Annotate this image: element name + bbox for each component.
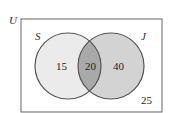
universe-label: U [9, 14, 18, 26]
set-s-only-count: 15 [56, 60, 68, 72]
venn-diagram: U S J 15 20 40 25 [0, 0, 170, 113]
outside-count: 25 [141, 94, 153, 106]
intersection-count: 20 [85, 60, 97, 72]
set-s-label: S [35, 30, 41, 42]
set-j-only-count: 40 [113, 60, 125, 72]
